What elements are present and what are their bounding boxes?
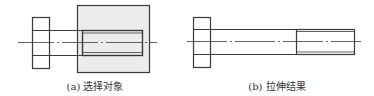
bolt-diagrams — [0, 0, 374, 96]
caption-b: (b) 拉伸结果 — [248, 81, 305, 93]
bolt-head — [33, 18, 50, 69]
figure-b-stretch-result — [187, 18, 361, 68]
figure-a-select-objects — [18, 6, 157, 73]
thread-section — [297, 30, 355, 55]
caption-a: (a) 选择对象 — [67, 81, 124, 93]
crossing-selection-window — [78, 6, 150, 73]
bolt-head — [194, 18, 211, 68]
